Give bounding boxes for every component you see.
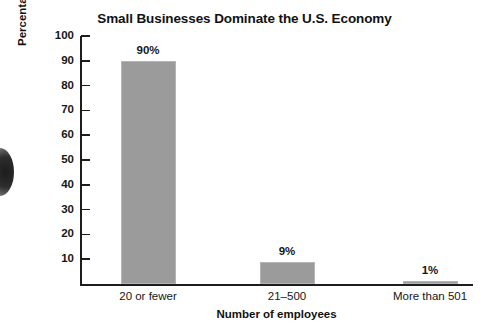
- y-axis-tick: [81, 60, 90, 62]
- y-axis-title: Percentage of all U.S. businesses: [16, 0, 30, 46]
- x-axis-title: Number of employees: [80, 308, 473, 320]
- y-axis-tick: [81, 35, 90, 37]
- y-axis-tick-label: 50: [40, 153, 74, 165]
- bar: [260, 262, 315, 284]
- y-axis-tick: [81, 85, 90, 87]
- x-axis-line: [80, 284, 473, 286]
- y-axis-line: [80, 36, 82, 286]
- y-axis-tick-label: 90: [40, 54, 74, 66]
- bar: [403, 281, 458, 284]
- y-axis-tick-label: 60: [40, 128, 74, 140]
- y-axis-tick: [81, 184, 90, 186]
- y-axis-tick: [81, 209, 90, 211]
- y-axis-tick: [81, 159, 90, 161]
- y-axis-title-container: Percentage of all U.S. businesses: [0, 0, 40, 300]
- chart-figure: Small Businesses Dominate the U.S. Econo…: [0, 0, 489, 328]
- y-axis-tick: [81, 110, 90, 112]
- y-axis-tick-label: 80: [40, 79, 74, 91]
- bar-value-label: 9%: [247, 245, 327, 257]
- bar-value-label: 90%: [108, 44, 188, 56]
- y-axis-tick-label: 10: [40, 252, 74, 264]
- x-axis-category-label: 21–500: [227, 290, 347, 302]
- y-axis-tick: [81, 258, 90, 260]
- chart-title: Small Businesses Dominate the U.S. Econo…: [0, 11, 489, 26]
- y-axis-tick-label: 70: [40, 103, 74, 115]
- bar: [121, 61, 176, 284]
- x-axis-category-label: More than 501: [370, 290, 489, 302]
- y-axis-tick: [81, 234, 90, 236]
- x-axis-category-label: 20 or fewer: [88, 290, 208, 302]
- y-axis-tick: [81, 134, 90, 136]
- y-axis-tick-label: 100: [40, 29, 74, 41]
- y-axis-tick-label: 20: [40, 227, 74, 239]
- bar-value-label: 1%: [390, 264, 470, 276]
- y-axis-tick-label: 40: [40, 178, 74, 190]
- y-axis-tick-label: 30: [40, 203, 74, 215]
